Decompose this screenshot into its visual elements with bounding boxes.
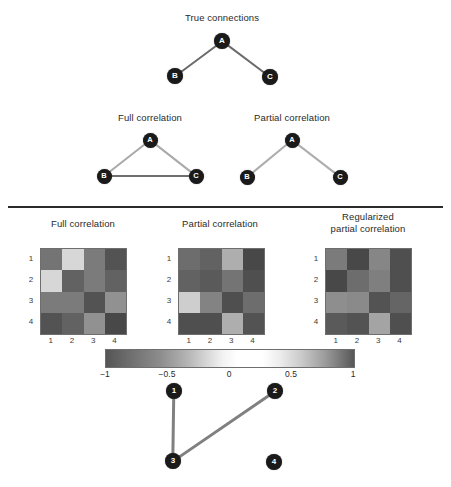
heatmap-regularized-xtick: 2 xyxy=(350,336,364,346)
true-connections-node-label: B xyxy=(172,72,178,80)
heatmap-cell xyxy=(84,313,105,334)
recovered-network-node-4: 4 xyxy=(266,454,282,470)
heatmap-cell xyxy=(347,249,368,270)
partial-correlation-node-C: C xyxy=(333,170,348,185)
partial-correlation-node-label: C xyxy=(337,173,342,181)
partial-correlation-node-label: A xyxy=(289,136,294,144)
matrix-title-regularized: Regularized partial correlation xyxy=(308,211,428,234)
heatmap-cell xyxy=(326,292,347,313)
heatmap-cell xyxy=(243,270,264,291)
partial-correlation-node-A: A xyxy=(285,133,300,148)
heatmap-cell xyxy=(84,249,105,270)
heatmap-cell xyxy=(369,249,390,270)
heatmap-full-xtick: 4 xyxy=(107,336,121,346)
heatmap-cell xyxy=(222,249,243,270)
heatmap-cell xyxy=(84,270,105,291)
heatmap-cell xyxy=(105,270,126,291)
full-correlation-edge-B-C xyxy=(104,175,196,178)
recovered-network-node-1: 1 xyxy=(166,383,182,399)
heatmap-cell xyxy=(179,313,200,334)
heatmap-partial-ytick: 1 xyxy=(162,254,176,264)
colorbar-tick: 0 xyxy=(216,369,242,379)
heatmap-cell xyxy=(62,270,83,291)
heatmap-partial-xtick: 2 xyxy=(203,336,217,346)
heatmap-cell xyxy=(222,292,243,313)
heatmap-cell xyxy=(105,313,126,334)
heatmap-regularized xyxy=(325,248,412,335)
heatmap-regularized-ytick: 2 xyxy=(309,275,323,285)
true-connections-title: True connections xyxy=(152,12,292,24)
heatmap-regularized-ytick: 3 xyxy=(309,296,323,306)
heatmap-cell xyxy=(62,249,83,270)
heatmap-partial-ytick: 2 xyxy=(162,275,176,285)
heatmap-full-xtick: 2 xyxy=(65,336,79,346)
heatmap-cell xyxy=(62,292,83,313)
recovered-network-node-label: 4 xyxy=(272,458,276,466)
true-connections-node-B: B xyxy=(167,68,183,84)
partial-correlation-graph-title: Partial correlation xyxy=(232,112,352,124)
heatmap-cell xyxy=(390,249,411,270)
recovered-network-node-label: 2 xyxy=(273,387,277,395)
full-correlation-node-C: C xyxy=(189,169,204,184)
true-connections-node-label: C xyxy=(267,73,273,81)
section-divider xyxy=(8,206,443,208)
heatmap-cell xyxy=(390,313,411,334)
heatmap-cell xyxy=(179,270,200,291)
partial-correlation-node-B: B xyxy=(240,170,255,185)
heatmap-full-xtick: 1 xyxy=(44,336,58,346)
heatmap-cell xyxy=(369,313,390,334)
figure-canvas: True connections ABC Full correlation AB… xyxy=(0,0,451,487)
heatmap-partial xyxy=(178,248,265,335)
heatmap-cell xyxy=(326,249,347,270)
full-correlation-node-label: B xyxy=(101,172,106,180)
heatmap-regularized-xtick: 4 xyxy=(392,336,406,346)
heatmap-cell xyxy=(62,313,83,334)
heatmap-cell xyxy=(243,249,264,270)
heatmap-cell xyxy=(41,292,62,313)
heatmap-cell xyxy=(222,270,243,291)
heatmap-regularized-ytick: 1 xyxy=(309,254,323,264)
heatmap-partial-ytick: 3 xyxy=(162,296,176,306)
heatmap-cell xyxy=(326,313,347,334)
heatmap-cell xyxy=(369,292,390,313)
heatmap-cell xyxy=(41,249,62,270)
heatmap-full-ytick: 1 xyxy=(24,254,38,264)
full-correlation-graph-title: Full correlation xyxy=(90,112,210,124)
true-connections-node-C: C xyxy=(262,69,278,85)
heatmap-cell xyxy=(84,292,105,313)
colorbar-tick: 0.5 xyxy=(278,369,304,379)
heatmap-cell xyxy=(200,249,221,270)
heatmap-full xyxy=(40,248,127,335)
heatmap-cell xyxy=(347,313,368,334)
heatmap-cell xyxy=(243,313,264,334)
heatmap-cell xyxy=(105,292,126,313)
heatmap-regularized-xtick: 3 xyxy=(371,336,385,346)
full-correlation-node-label: C xyxy=(193,172,198,180)
heatmap-cell xyxy=(179,292,200,313)
heatmap-cell xyxy=(347,270,368,291)
heatmap-regularized-xtick: 1 xyxy=(329,336,343,346)
full-correlation-node-label: A xyxy=(147,136,152,144)
heatmap-cell xyxy=(326,270,347,291)
recovered-network-node-label: 1 xyxy=(172,387,176,395)
recovered-network-edge-2-3 xyxy=(172,390,276,462)
full-correlation-node-B: B xyxy=(97,169,112,184)
heatmap-full-ytick: 2 xyxy=(24,275,38,285)
heatmap-cell xyxy=(41,270,62,291)
partial-correlation-edge-A-C xyxy=(291,139,340,178)
true-connections-node-A: A xyxy=(214,33,230,49)
heatmap-partial-xtick: 3 xyxy=(224,336,238,346)
recovered-network-node-2: 2 xyxy=(267,383,283,399)
heatmap-cell xyxy=(105,249,126,270)
heatmap-partial-xtick: 1 xyxy=(182,336,196,346)
heatmap-cell xyxy=(41,313,62,334)
full-correlation-node-A: A xyxy=(143,133,158,148)
recovered-network-node-label: 3 xyxy=(171,457,175,465)
matrix-title-full: Full correlation xyxy=(23,218,143,230)
heatmap-regularized-ytick: 4 xyxy=(309,317,323,327)
heatmap-cell xyxy=(200,313,221,334)
heatmap-cell xyxy=(347,292,368,313)
colorbar-tick: −0.5 xyxy=(154,369,180,379)
heatmap-cell xyxy=(243,292,264,313)
heatmap-cell xyxy=(179,249,200,270)
